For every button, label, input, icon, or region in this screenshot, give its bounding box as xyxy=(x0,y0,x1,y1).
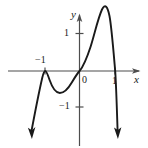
coordinate-plot xyxy=(0,0,148,148)
origin-label: 0 xyxy=(82,75,87,85)
graph-figure: y x 1 −1 −1 1 0 xyxy=(0,0,148,148)
y-axis-label: y xyxy=(71,9,76,20)
y-tick-label-positive-one: 1 xyxy=(64,28,69,38)
x-tick-label-positive-one: 1 xyxy=(112,76,117,86)
x-axis-label: x xyxy=(134,74,139,85)
x-tick-label-negative-one: −1 xyxy=(35,55,46,65)
y-tick-label-negative-one: −1 xyxy=(59,101,70,111)
